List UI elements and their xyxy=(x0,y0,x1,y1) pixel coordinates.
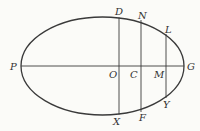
label-G: G xyxy=(187,61,195,72)
label-O: O xyxy=(109,69,117,80)
label-Y: Y xyxy=(163,99,171,110)
label-D: D xyxy=(114,6,123,17)
label-N: N xyxy=(137,10,148,21)
label-X: X xyxy=(112,116,121,127)
label-L: L xyxy=(164,24,172,35)
label-C: C xyxy=(130,69,138,80)
ellipse-diagram: P G O C M D N L X F Y xyxy=(0,0,200,131)
label-P: P xyxy=(9,61,17,72)
label-F: F xyxy=(138,112,147,123)
label-M: M xyxy=(153,69,165,80)
